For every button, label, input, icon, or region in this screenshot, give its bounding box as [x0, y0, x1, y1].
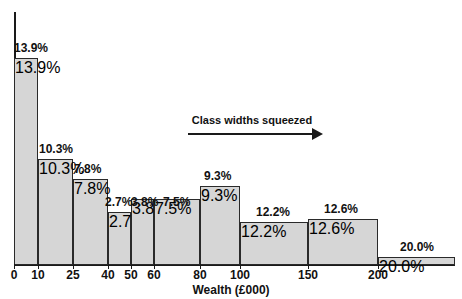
- bar-value-label: 9.3%: [204, 169, 231, 183]
- bar-value-label: 7.5%: [163, 195, 190, 209]
- x-axis-tick-label: 0: [11, 268, 18, 282]
- histogram-chart: 13.9%10.3%7.8%2.7%3.8%7.5%9.3%12.2%12.6%…: [0, 0, 462, 299]
- x-axis-tick-label: 80: [193, 268, 206, 282]
- bar-value-label: 2.7%: [105, 195, 132, 209]
- bar-value-label: 13.9%: [14, 41, 48, 55]
- x-axis-tick-label: 150: [298, 268, 318, 282]
- bar-value-label: 7.8%: [74, 162, 101, 176]
- x-axis-tick-label: 200: [368, 268, 388, 282]
- x-axis-tick-label: 60: [147, 268, 160, 282]
- x-axis-tick-label: 50: [124, 268, 137, 282]
- arrow-right-icon: [312, 128, 323, 140]
- histogram-bar: 7.8%: [73, 179, 108, 265]
- bar-value-label: 12.6%: [324, 202, 358, 216]
- x-axis-title: Wealth (£000): [0, 283, 462, 297]
- class-widths-annotation-label: Class widths squeezed: [186, 114, 318, 126]
- x-axis-tick-label: 10: [31, 268, 44, 282]
- bar-value-label: 10.3%: [39, 142, 73, 156]
- histogram-bar: 9.3%: [200, 186, 240, 265]
- histogram-bar: 12.2%: [240, 222, 308, 265]
- histogram-bar: 10.3%: [38, 159, 73, 265]
- annotation-underline: [188, 133, 314, 135]
- histogram-bar: 2.7%: [108, 212, 131, 265]
- x-axis-tick-label: 25: [66, 268, 79, 282]
- bar-value-label: 20.0%: [400, 240, 434, 254]
- bar-value-label: 12.2%: [256, 205, 290, 219]
- bar-value-label: 3.8%: [131, 195, 158, 209]
- class-widths-annotation: Class widths squeezed: [186, 114, 326, 140]
- histogram-bar: 12.6%: [308, 219, 378, 265]
- histogram-bar: 13.9%: [14, 58, 38, 265]
- x-axis-tick-label: 40: [101, 268, 114, 282]
- x-axis-tick-label: 100: [230, 268, 250, 282]
- histogram-bar: 20.0%: [378, 257, 455, 265]
